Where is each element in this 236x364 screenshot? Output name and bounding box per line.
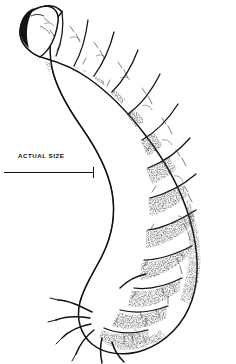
tail-appendage-tips: [48, 298, 76, 361]
segment-line-6: [142, 104, 178, 140]
illustration-page: ACTUAL SIZE: [0, 0, 236, 364]
segment-line-4: [112, 50, 138, 92]
segment-line-3: [94, 32, 114, 76]
larva-body: [20, 6, 197, 354]
segment-line-2: [74, 20, 88, 66]
segment-line-5: [128, 74, 160, 114]
larva-illustration: [0, 0, 236, 364]
scale-bar-right-tick: [93, 167, 94, 178]
head-capsule: [20, 6, 58, 57]
scale-label: ACTUAL SIZE: [18, 151, 64, 160]
scale-bar: [4, 172, 94, 173]
